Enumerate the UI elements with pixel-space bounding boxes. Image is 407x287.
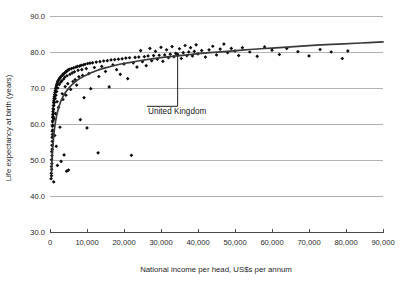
x-tick-label-10000: 10,000 [75, 238, 98, 247]
y-tick-label-40: 40.0 [30, 192, 45, 201]
x-tick-label-60000: 60,000 [260, 238, 283, 247]
chart-figure: 30.040.050.060.070.080.090.0 010,00020,0… [0, 0, 407, 287]
y-tick-label-60: 60.0 [30, 120, 45, 129]
x-tick-label-70000: 70,000 [297, 238, 320, 247]
x-tick-label-50000: 50,000 [223, 238, 246, 247]
y-tick-label-30: 30.0 [30, 228, 45, 237]
annotation-label-united-kingdom: United Kingdom [148, 107, 206, 116]
y-tick-label-90: 90.0 [30, 12, 45, 21]
x-axis-title: National income per head, US$s per annum [140, 265, 292, 274]
y-tick-label-70: 70.0 [30, 84, 45, 93]
life-expectancy-vs-income-scatter-chart: 30.040.050.060.070.080.090.0 010,00020,0… [0, 0, 407, 287]
x-tick-label-90000: 90,000 [371, 238, 394, 247]
x-tick-label-20000: 20,000 [112, 238, 135, 247]
y-tick-label-50: 50.0 [30, 156, 45, 165]
x-tick-label-80000: 80,000 [334, 238, 357, 247]
x-tick-label-0: 0 [48, 238, 52, 247]
y-axis-title: Life expectancy at birth (years) [4, 74, 13, 181]
y-tick-label-80: 80.0 [30, 48, 45, 57]
x-tick-label-30000: 30,000 [149, 238, 172, 247]
x-tick-label-40000: 40,000 [186, 238, 209, 247]
